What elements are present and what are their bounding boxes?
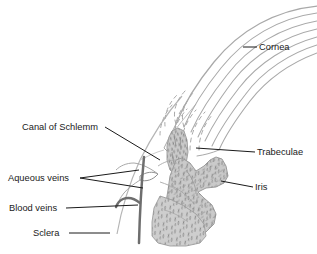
label-sclera: Sclera: [33, 228, 60, 238]
blood-veins-structure: [116, 157, 144, 243]
label-iris: Iris: [255, 182, 268, 192]
cornea-angle-edge: [197, 150, 219, 156]
cornea-dashed-striation-9: [160, 105, 172, 135]
cornea-striation-1: [184, 13, 317, 127]
cornea-dashed-striation-7: [199, 114, 213, 150]
eye-anatomy-figure: Cornea Trabeculae Iris Canal of Schlemm …: [0, 0, 317, 254]
leader-aqueous-veins-upper: [80, 170, 139, 178]
leader-iris: [221, 181, 253, 187]
label-trabeculae: Trabeculae: [257, 147, 303, 157]
leader-aqueous-veins-lower: [80, 178, 143, 188]
iris-structure: [148, 150, 235, 252]
label-canal-of-schlemm: Canal of Schlemm: [22, 122, 98, 132]
blood-vein-main-trunk: [139, 157, 144, 243]
leader-trabeculae: [196, 148, 255, 152]
aqueous-vein-channel-lower: [118, 180, 140, 206]
diagram-canvas: Cornea Trabeculae Iris Canal of Schlemm …: [0, 0, 317, 254]
label-blood-veins: Blood veins: [9, 203, 57, 213]
leader-canal-of-schlemm: [105, 127, 160, 160]
label-aqueous-veins: Aqueous veins: [8, 173, 69, 183]
label-cornea: Cornea: [259, 42, 290, 52]
leader-blood-veins: [66, 205, 138, 208]
